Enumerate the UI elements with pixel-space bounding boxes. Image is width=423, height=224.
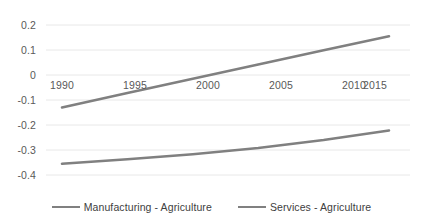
x-tick-label: 1995 (115, 79, 155, 91)
x-tick-label: 2000 (188, 79, 228, 91)
series-line-manufacturing-agriculture (62, 36, 389, 107)
legend-item-label: Manufacturing - Agriculture (84, 201, 212, 213)
legend-line-swatch-icon (238, 206, 266, 209)
legend-line-swatch-icon (52, 206, 80, 209)
y-tick-label: -0.3 (2, 144, 36, 156)
y-tick-label: -0.2 (2, 119, 36, 131)
y-tick-label: 0 (2, 69, 36, 81)
x-tick-label: 1990 (42, 79, 82, 91)
legend-item-manufacturing-agriculture[interactable]: Manufacturing - Agriculture (52, 201, 212, 213)
chart-legend: Manufacturing - Agriculture Services - A… (0, 201, 423, 213)
x-tick-label: 2005 (261, 79, 301, 91)
chart-plot-area (0, 0, 423, 224)
y-tick-label: -0.1 (2, 94, 36, 106)
x-tick-label: 2015 (355, 79, 395, 91)
y-tick-label: 0.2 (2, 19, 36, 31)
series-line-services-agriculture (62, 131, 389, 164)
y-tick-label: -0.4 (2, 169, 36, 181)
legend-item-services-agriculture[interactable]: Services - Agriculture (238, 201, 371, 213)
y-tick-label: 0.1 (2, 44, 36, 56)
line-chart: 0.2 0.1 0 -0.1 -0.2 -0.3 -0.4 1990 1995 … (0, 0, 423, 224)
legend-item-label: Services - Agriculture (270, 201, 371, 213)
